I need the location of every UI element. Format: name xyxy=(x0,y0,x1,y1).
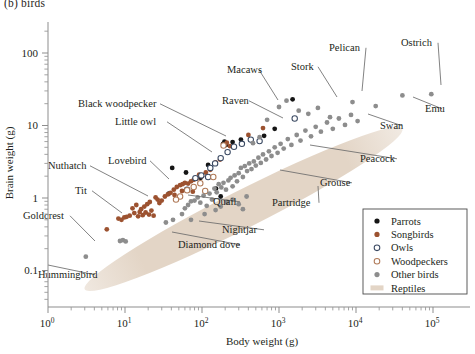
legend-band-swatch xyxy=(371,285,384,290)
legend-marker xyxy=(374,245,380,251)
data-point xyxy=(147,200,152,205)
data-point xyxy=(253,163,258,168)
data-point xyxy=(264,157,269,162)
data-point xyxy=(225,149,230,154)
data-point xyxy=(429,92,434,97)
annotation-stork: Stork xyxy=(291,61,315,72)
data-point xyxy=(204,203,209,208)
data-point xyxy=(221,143,226,148)
data-point xyxy=(104,227,109,232)
data-point xyxy=(261,152,266,157)
data-point xyxy=(236,171,241,176)
data-point xyxy=(294,133,299,138)
x-tick-label: 101 xyxy=(117,316,132,330)
data-point xyxy=(306,111,311,116)
data-point xyxy=(221,180,226,185)
data-point xyxy=(170,166,175,171)
data-point xyxy=(249,167,254,172)
x-tick-label: 105 xyxy=(425,316,440,330)
data-point xyxy=(343,123,348,128)
data-point xyxy=(130,206,135,211)
data-point xyxy=(191,184,196,189)
data-point xyxy=(164,220,169,225)
data-point xyxy=(83,254,88,259)
annotation-diamond-dove: Diamond dove xyxy=(178,239,240,250)
legend-marker xyxy=(374,258,380,264)
annotation-little-owl: Little owl xyxy=(115,116,156,127)
annotation-swan: Swan xyxy=(380,120,404,131)
data-point xyxy=(262,133,267,138)
legend-marker xyxy=(374,232,379,237)
leader-line xyxy=(70,216,95,241)
leader-line xyxy=(92,191,122,213)
annotation-grouse: Grouse xyxy=(320,177,351,188)
annotation-black-woodpecker: Black woodpecker xyxy=(78,98,157,109)
data-point xyxy=(242,164,247,169)
annotation-lovebird: Lovebird xyxy=(108,155,147,166)
annotation-tit: Tit xyxy=(75,185,87,196)
data-point xyxy=(232,173,237,178)
scatter-plot: HummingbirdGoldcrestTitNuthatchLovebirdL… xyxy=(0,0,475,354)
data-point xyxy=(193,175,198,180)
legend-marker xyxy=(374,218,379,223)
leader-line xyxy=(318,67,337,97)
data-point xyxy=(231,144,236,149)
data-point xyxy=(267,149,272,154)
data-point xyxy=(303,128,308,133)
annotation-partridge: Partridge xyxy=(272,197,311,208)
data-point xyxy=(198,200,203,205)
data-point xyxy=(337,116,342,121)
data-point xyxy=(235,179,240,184)
data-point xyxy=(319,129,324,134)
data-point xyxy=(316,106,321,111)
data-point xyxy=(245,169,250,174)
annotation-nightjar: Nightjar xyxy=(222,224,257,235)
data-point xyxy=(207,191,212,196)
annotation-ostrich: Ostrich xyxy=(401,37,433,48)
data-point xyxy=(256,155,261,160)
x-tick-label: 104 xyxy=(348,316,363,330)
data-point xyxy=(202,212,207,217)
data-point xyxy=(277,105,282,110)
data-point xyxy=(272,145,277,150)
data-point xyxy=(134,203,139,208)
data-point xyxy=(261,126,266,131)
data-point xyxy=(180,189,185,194)
data-point xyxy=(218,155,223,160)
data-point xyxy=(228,175,233,180)
data-point xyxy=(241,175,246,180)
legend-label: Songbirds xyxy=(391,229,434,240)
data-point xyxy=(173,197,178,202)
data-point xyxy=(247,161,252,166)
annotation-macaws: Macaws xyxy=(227,64,262,75)
x-tick-label: 100 xyxy=(40,316,55,330)
data-point xyxy=(198,181,203,186)
data-point xyxy=(257,135,262,140)
leader-line xyxy=(362,48,366,91)
legend-marker xyxy=(374,272,379,277)
data-point xyxy=(211,174,216,179)
legend-label: Owls xyxy=(391,242,413,253)
leader-line xyxy=(160,104,226,136)
data-point xyxy=(203,188,208,193)
data-point xyxy=(180,212,185,217)
data-point xyxy=(290,97,295,102)
data-point xyxy=(199,173,204,178)
annotation-raven: Raven xyxy=(222,95,250,106)
chart-legend[interactable]: ParrotsSongbirdsOwlsWoodpeckersOther bir… xyxy=(363,209,467,294)
data-point xyxy=(325,120,330,125)
data-point xyxy=(355,119,360,124)
y-tick-label: 100 xyxy=(22,47,39,59)
data-point xyxy=(241,207,246,212)
data-point xyxy=(184,170,189,175)
legend-label: Other birds xyxy=(391,269,439,280)
leader-line xyxy=(150,161,169,179)
leader-line xyxy=(90,166,148,196)
legend-label: Reptiles xyxy=(391,283,425,294)
data-point xyxy=(289,143,294,148)
data-point xyxy=(214,190,219,195)
data-point xyxy=(205,174,210,179)
data-point xyxy=(284,98,289,103)
data-point xyxy=(296,108,301,113)
data-point xyxy=(208,165,213,170)
